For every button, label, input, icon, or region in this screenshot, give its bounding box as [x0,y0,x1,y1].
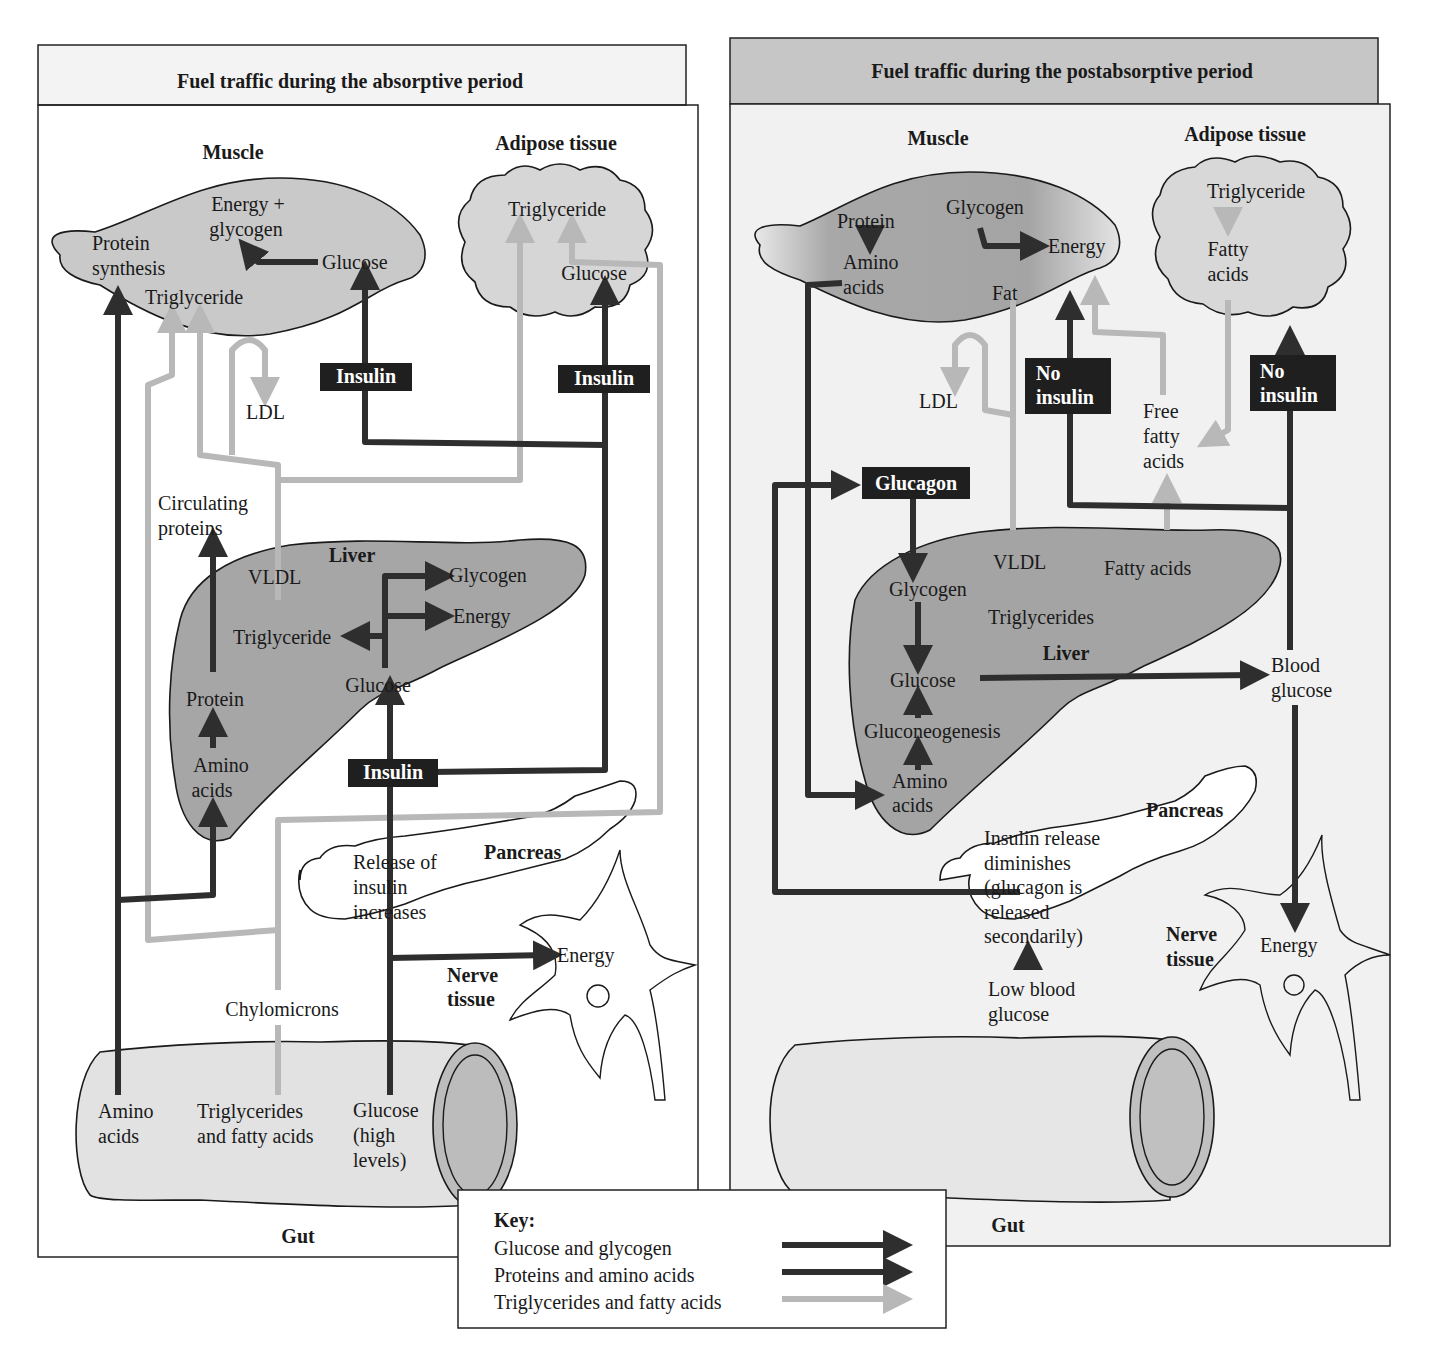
post-adipose-label: Adipose tissue [1184,123,1306,146]
gut-amino-line1: Amino [98,1100,154,1122]
key-item-glucose: Glucose and glycogen [494,1237,672,1260]
post-gut-label: Gut [991,1214,1025,1236]
post-nerve-label-line1: Nerve [1166,923,1217,945]
gut-tg-line1: Triglycerides [197,1100,303,1123]
pancreas-text-line2: insulin [353,876,407,898]
key-item-triglyceride: Triglycerides and fatty acids [494,1291,722,1314]
insulin-box-liver: Insulin [348,759,438,787]
svg-text:insulin: insulin [1036,386,1094,408]
insulin-box-adipose: Insulin [558,365,650,393]
muscle-protein-synthesis-line2: synthesis [92,257,166,280]
liver-amino-line2: acids [191,779,232,801]
gut-tg-line2: and fatty acids [197,1125,314,1148]
muscle-energy-glycogen-line1: Energy + [211,193,285,216]
svg-text:No: No [1036,362,1060,384]
post-muscle-protein: Protein [837,210,895,232]
gut-opening [433,1043,517,1207]
post-muscle-fat: Fat [992,282,1018,304]
absorptive-title: Fuel traffic during the absorptive perio… [177,70,523,93]
post-liver-glucose: Glucose [890,669,956,691]
post-nerve-label-line2: tissue [1166,948,1214,970]
post-liver-label: Liver [1043,642,1090,664]
liver-label: Liver [329,544,376,566]
liver-glucose: Glucose [345,674,411,696]
glucagon-box: Glucagon [862,467,970,499]
post-liver-fatty-acids: Fatty acids [1104,557,1191,580]
gut-label: Gut [281,1225,315,1247]
post-liver-gluconeogenesis: Gluconeogenesis [864,720,1001,743]
blood-glucose-line1: Blood [1271,654,1320,676]
gut-organ [76,1041,470,1207]
post-muscle-energy: Energy [1048,235,1105,258]
gut-glucose-line3: levels) [353,1149,406,1172]
muscle-label: Muscle [202,141,263,163]
no-insulin-box-adipose: No insulin [1250,355,1336,411]
liver-glucose-to-blood-arrow [980,675,1255,678]
ldl-label: LDL [246,401,285,423]
ldl-line [232,340,265,455]
post-adipose-fatty-line1: Fatty [1207,238,1248,261]
pancreas-text-line1: Release of [353,851,437,873]
adipose-label: Adipose tissue [495,132,617,155]
muscle-triglyceride: Triglyceride [145,286,243,309]
post-nerve-energy: Energy [1260,934,1317,957]
gut-amino-line2: acids [98,1125,139,1147]
svg-text:Insulin: Insulin [363,761,423,783]
chylomicrons-label: Chylomicrons [225,998,339,1021]
nerve-label-line2: tissue [447,988,495,1010]
low-glucose-line2: glucose [988,1003,1049,1026]
absorptive-panel: Fuel traffic during the absorptive perio… [38,45,698,1257]
key-title: Key: [494,1209,535,1232]
nerve-nucleus [587,985,609,1007]
svg-text:No: No [1260,360,1284,382]
nerve-cell [510,850,695,1100]
muscle-energy-glycogen-line2: glycogen [209,218,282,241]
svg-text:Glucagon: Glucagon [875,472,957,495]
post-muscle-amino-line1: Amino [843,251,899,273]
adipose-organ [459,164,653,316]
liver-amino-line1: Amino [193,754,249,776]
post-adipose-triglyceride: Triglyceride [1207,180,1305,203]
glucose-to-nerve-arrow [390,955,548,958]
legend-key: Key: Glucose and glycogen Proteins and a… [458,1190,946,1328]
svg-text:insulin: insulin [1260,384,1318,406]
post-pancreas-line3: (glucagon is [984,876,1083,899]
free-fatty-line3: acids [1143,450,1184,472]
svg-text:Insulin: Insulin [574,367,634,389]
muscle-protein-synthesis-line1: Protein [92,232,150,254]
post-pancreas-line4: released [984,901,1050,923]
post-liver-amino-line1: Amino [892,770,948,792]
postabsorptive-panel: Fuel traffic during the postabsorptive p… [730,38,1390,1246]
post-gut-organ [770,1036,1170,1202]
nerve-label-line1: Nerve [447,964,498,986]
liver-triglyceride: Triglyceride [233,626,331,649]
post-pancreas-line2: diminishes [984,852,1071,874]
circulating-proteins-line1: Circulating [158,492,248,515]
post-muscle-amino-line2: acids [843,276,884,298]
muscle-glucose: Glucose [322,251,388,273]
key-item-protein: Proteins and amino acids [494,1264,695,1286]
no-insulin-box-muscle: No insulin [1025,358,1111,414]
pancreas-organ [299,781,636,919]
gut-glucose-line1: Glucose [353,1099,419,1121]
pancreas-label: Pancreas [484,841,562,863]
fuel-traffic-diagram: Fuel traffic during the absorptive perio… [0,0,1430,1360]
post-liver-amino-line2: acids [892,794,933,816]
post-liver-vldl: VLDL [993,551,1046,573]
gut-glucose-line2: (high [353,1124,395,1147]
post-muscle-label: Muscle [907,127,968,149]
svg-text:Insulin: Insulin [336,365,396,387]
liver-protein: Protein [186,688,244,710]
post-adipose-fatty-line2: acids [1207,263,1248,285]
liver-energy: Energy [453,605,510,628]
free-fatty-line1: Free [1143,400,1179,422]
adipose-triglyceride: Triglyceride [508,198,606,221]
post-ldl-label: LDL [919,390,958,412]
circulating-proteins-line2: proteins [158,517,223,540]
post-liver-glycogen: Glycogen [889,578,967,601]
post-pancreas-line1: Insulin release [984,827,1100,849]
low-glucose-line1: Low blood [988,978,1075,1000]
free-fatty-line2: fatty [1143,425,1180,448]
adipose-glucose: Glucose [561,262,627,284]
post-pancreas-line5: secondarily) [984,925,1083,948]
